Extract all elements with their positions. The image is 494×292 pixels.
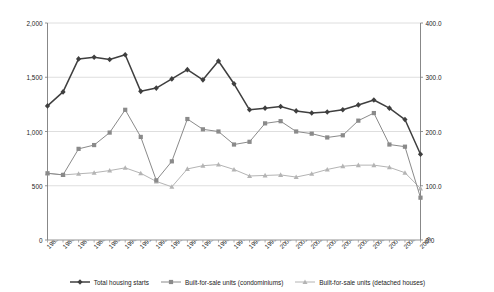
legend-marker-diamond-icon (69, 278, 91, 286)
chart-container: Total Housing Starts (in 1,000 units) Bu… (0, 0, 494, 292)
legend-label: Built-for-sale units (detached houses) (319, 279, 425, 286)
legend-item-0[interactable]: Total housing starts (69, 278, 149, 286)
legend-label: Built-for-sale units (condominiums) (185, 279, 283, 286)
legend-marker-triangle-icon (294, 278, 316, 286)
chart-legend: Total housing startsBuilt-for-sale units… (0, 278, 494, 286)
plot-area (0, 0, 494, 292)
legend-label: Total housing starts (94, 279, 149, 286)
legend-item-1[interactable]: Built-for-sale units (condominiums) (160, 278, 283, 286)
legend-item-2[interactable]: Built-for-sale units (detached houses) (294, 278, 425, 286)
legend-marker-square-icon (160, 278, 182, 286)
